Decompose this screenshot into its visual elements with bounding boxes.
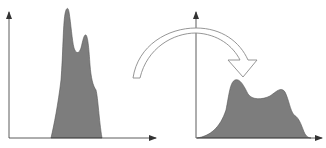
transform-arrow-icon [133,28,257,78]
left-distribution-curve [51,8,102,138]
histogram-transform-diagram [0,0,326,148]
right-distribution-curve [197,80,311,138]
